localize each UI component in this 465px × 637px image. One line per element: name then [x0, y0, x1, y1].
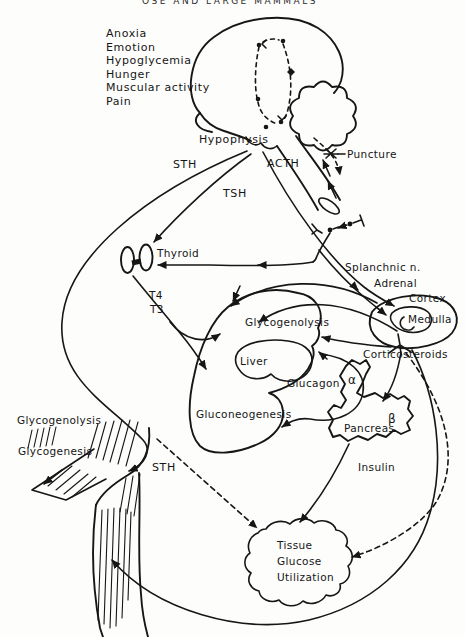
ganglion-dot	[328, 228, 333, 233]
corticosteroids-to-tissue-dashed-arrow	[352, 353, 448, 557]
label-thyroid: Thyroid	[156, 247, 199, 259]
label-muscle-glycogenesis: Glycogenesis	[18, 445, 92, 457]
label-adrenal: Adrenal	[374, 277, 417, 289]
label-glucose: Glucose	[277, 555, 322, 567]
synapse-mark	[278, 116, 286, 120]
label-gluconeogenesis: Gluconeogenesis	[196, 408, 292, 420]
sth-to-tissue-dashed-arrow	[157, 439, 257, 528]
synapse-dot	[281, 39, 286, 44]
stimulus-muscular-activity: Muscular activity	[106, 81, 210, 94]
stimulus-pain: Pain	[106, 95, 131, 108]
stimulus-hypoglycemia: Hypoglycemia	[106, 54, 192, 67]
muscle-outline-upper	[96, 428, 149, 505]
neural-reflex-loop	[255, 39, 295, 130]
muscle-hatch-knee	[120, 474, 140, 516]
insulin-to-tissue-arrow	[300, 444, 349, 522]
label-corticosteroids: Corticosteroids	[363, 348, 448, 360]
synapse-dot	[257, 43, 262, 48]
label-pancreas: Pancreas	[344, 422, 394, 434]
thyroid-gland	[121, 245, 153, 274]
glucagon-loop	[282, 354, 363, 427]
glucose-regulation-diagram: OSE AND LARGE MAMMALS Anoxia Emotion Hyp…	[0, 0, 465, 637]
label-muscle-glycogenolysis: Glycogenolysis	[17, 414, 101, 426]
label-beta-cells: β	[388, 412, 396, 426]
label-sth-muscle: STH	[152, 461, 176, 474]
label-t3: T3	[149, 303, 164, 315]
chain-link	[353, 215, 364, 226]
label-tissue: Tissue	[276, 539, 312, 551]
label-glucagon: Glucagon	[287, 377, 340, 389]
thyroid-left-lobe	[121, 247, 134, 273]
page-header-fragment: OSE AND LARGE MAMMALS	[142, 0, 318, 6]
label-puncture: Puncture	[347, 148, 397, 160]
label-splanchnic-nerve: Splanchnic n.	[345, 261, 421, 273]
sympathetic-to-thyroid-arrow	[158, 262, 313, 266]
synapse-dot	[264, 125, 269, 130]
spinal-cord-cut-end	[316, 195, 341, 217]
thyroid-isthmus	[132, 261, 141, 263]
label-liver-glycogenolysis: Glycogenolysis	[245, 316, 329, 328]
chain-connector	[313, 233, 330, 262]
brain-outline	[191, 18, 343, 132]
stimulus-hunger: Hunger	[106, 68, 150, 81]
label-hypophysis: Hypophysis	[199, 133, 268, 146]
liver-outline	[190, 290, 321, 453]
synapse-dot	[256, 97, 261, 102]
figure-page: OSE AND LARGE MAMMALS Anoxia Emotion Hyp…	[0, 0, 465, 637]
ganglion-dot	[348, 222, 353, 227]
label-insulin: Insulin	[358, 461, 395, 473]
muscle-hatch-lower	[98, 508, 131, 628]
puncture-mark	[324, 149, 345, 158]
muscle-hatch-spike	[48, 466, 96, 497]
label-alpha-cells: α	[348, 373, 356, 387]
labels: OSE AND LARGE MAMMALS Anoxia Emotion Hyp…	[17, 0, 452, 583]
label-utilization: Utilization	[277, 571, 334, 583]
synapse-mark	[262, 40, 266, 48]
label-acth: ACTH	[267, 157, 299, 170]
synapse-mark	[287, 68, 295, 76]
stimulus-emotion: Emotion	[106, 41, 156, 54]
liver-organ	[190, 290, 321, 453]
muscle-outline-outer	[139, 473, 148, 637]
sympathetic-chain	[312, 215, 364, 262]
stimulus-anoxia: Anoxia	[106, 27, 147, 40]
ascending-arrow	[328, 181, 336, 198]
label-liver: Liver	[240, 355, 268, 367]
label-t4: T4	[148, 289, 163, 301]
label-sth-pituitary: STH	[173, 158, 197, 171]
thyroid-right-lobe	[140, 245, 153, 271]
organs	[28, 245, 457, 637]
pathway-arrows	[62, 151, 448, 624]
spinal-cord-left-edge	[277, 146, 318, 210]
label-tsh: TSH	[222, 187, 247, 200]
label-medulla: Medulla	[408, 313, 452, 325]
loop-bottom	[258, 102, 278, 124]
label-cortex: Cortex	[409, 292, 446, 304]
loop-left	[255, 47, 259, 102]
